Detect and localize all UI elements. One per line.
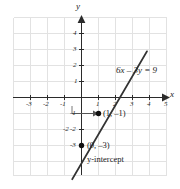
point-1-neg1 <box>96 111 101 116</box>
run-arrow <box>72 106 99 116</box>
x-tick-label--2: -2 <box>43 101 49 108</box>
y-intercept-note: y-intercept <box>87 155 124 164</box>
grid-horizontal <box>14 18 167 176</box>
x-tick-label--3: -3 <box>26 101 32 108</box>
y-tick-label--2: -2 <box>70 126 76 133</box>
equation-label: 6x – 3y = 9 <box>116 66 157 75</box>
y-axis <box>78 15 86 175</box>
x-tick-label--1: -1 <box>60 101 66 108</box>
point-label-1-neg1: (1, –1) <box>103 109 126 118</box>
y-tick-label--2-duplicate: -2 <box>63 126 69 133</box>
x-tick-label-1: 1 <box>96 101 100 108</box>
point-label-0-neg3: (0, –3) <box>87 141 110 150</box>
x-axis-label: x <box>170 90 174 99</box>
y-tick-label-3: 3 <box>73 46 77 53</box>
x-tick-label-5: 5 <box>164 101 168 108</box>
y-axis-label: y <box>76 2 80 11</box>
y-tick-label-2: 2 <box>73 62 77 69</box>
y-tick-label--1: -1 <box>70 110 76 117</box>
grid-vertical <box>14 18 167 176</box>
y-tick-label-4: 4 <box>73 30 77 37</box>
x-tick-label-4: 4 <box>147 101 151 108</box>
x-tick-label-2: 2 <box>113 101 117 108</box>
y-tick-label--3: -3 <box>70 142 76 149</box>
point-0-neg3 <box>79 143 84 148</box>
y-tick-label-1: 1 <box>74 78 78 85</box>
x-tick-label-3: 3 <box>130 101 134 108</box>
graph-figure: y x -3 -2 -1 1 2 3 4 5 4 3 2 1 -1 -2 -2 … <box>0 0 180 189</box>
